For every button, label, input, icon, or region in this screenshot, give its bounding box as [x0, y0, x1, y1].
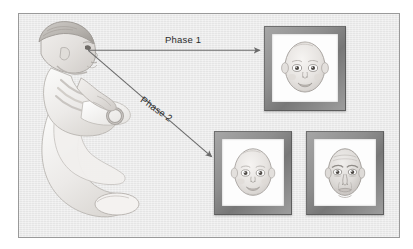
bottom-left-frame[interactable] [214, 131, 292, 215]
infant-face-icon [272, 34, 338, 102]
infant-face-icon [222, 139, 284, 206]
frame-mat [272, 34, 338, 102]
frame-mat [222, 139, 284, 206]
phase1-label: Phase 1 [165, 34, 201, 45]
figure-illustration: Phase 1 Phase 2 [0, 0, 413, 249]
adult-face-icon [314, 139, 376, 206]
illustration-stage: Phase 1 Phase 2 [19, 14, 399, 237]
illustration-panel: Phase 1 Phase 2 [18, 13, 400, 238]
top-frame[interactable] [264, 26, 346, 111]
frame-mat [314, 139, 376, 206]
bottom-right-frame[interactable] [306, 131, 384, 215]
